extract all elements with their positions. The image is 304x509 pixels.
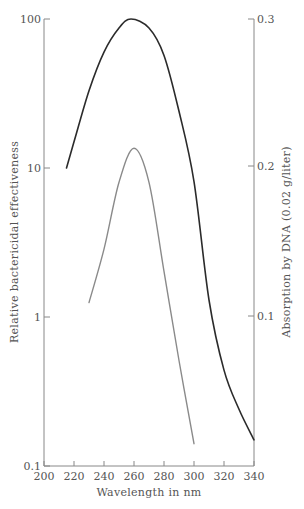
dna-absorption-curve bbox=[89, 148, 194, 444]
bactericidal-effectiveness-curve bbox=[67, 19, 255, 440]
y-right-tick-label: 0.1 bbox=[257, 310, 275, 323]
x-tick-label: 260 bbox=[124, 470, 145, 483]
y-left-tick-label: 0.1 bbox=[24, 460, 42, 473]
y-left-tick-label: 10 bbox=[27, 162, 41, 175]
axes bbox=[44, 19, 254, 466]
y-left-tick-label: 100 bbox=[20, 13, 41, 26]
x-tick-label: 340 bbox=[244, 470, 265, 483]
y-right-tick-label: 0.3 bbox=[257, 13, 275, 26]
x-tick-label: 280 bbox=[154, 470, 175, 483]
series bbox=[67, 19, 255, 444]
x-tick-label: 320 bbox=[214, 470, 235, 483]
ticks: 2002202402602803003203400.11101000.10.20… bbox=[20, 13, 275, 483]
chart: 2002202402602803003203400.11101000.10.20… bbox=[0, 0, 304, 509]
y-axis-left-title: Relative bactericidal effectiveness bbox=[8, 141, 21, 343]
y-axis-right-title: Absorption by DNA (0.02 g/liter) bbox=[280, 146, 293, 338]
x-tick-label: 240 bbox=[94, 470, 115, 483]
x-axis-title: Wavelength in nm bbox=[96, 486, 201, 499]
y-right-tick-label: 0.2 bbox=[257, 160, 275, 173]
x-tick-label: 220 bbox=[64, 470, 85, 483]
x-tick-label: 300 bbox=[184, 470, 205, 483]
y-left-tick-label: 1 bbox=[34, 311, 41, 324]
